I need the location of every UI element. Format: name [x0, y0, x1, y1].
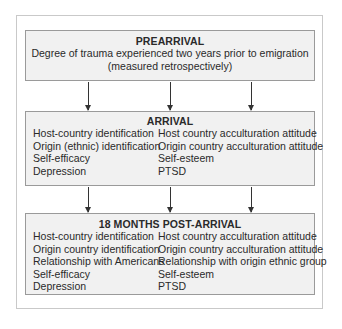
measure-item: Depression	[33, 165, 158, 178]
measure-item: Origin (ethnic) identification	[33, 140, 158, 153]
measure-item: Self-efficacy	[33, 268, 158, 281]
measure-item: PTSD	[158, 165, 323, 178]
measure-item: Relationship with origin ethnic group	[158, 255, 327, 268]
prearrival-description-line-1: Degree of trauma experienced two years p…	[26, 47, 314, 60]
arrival-title: ARRIVAL	[26, 115, 314, 127]
measure-item: Host-country identification	[33, 230, 158, 243]
prearrival-title: PREARRIVAL	[26, 35, 314, 47]
prearrival-description-line-2: (measured retrospectively)	[26, 60, 314, 73]
post-arrival-title: 18 MONTHS POST-ARRIVAL	[26, 218, 314, 230]
post-arrival-left-column: Host-country identification Origin count…	[33, 230, 158, 293]
arrival-box: ARRIVAL Host-country identification Orig…	[25, 111, 315, 186]
measure-item: Self-efficacy	[33, 152, 158, 165]
arrow-down-icon	[88, 82, 89, 110]
measure-item: Depression	[33, 280, 158, 293]
measure-item: Origin country identification	[33, 243, 158, 256]
arrow-down-icon	[251, 187, 252, 212]
arrow-down-icon	[170, 187, 171, 212]
measure-item: Self-esteem	[158, 268, 327, 281]
measure-item: Host country acculturation attitude	[158, 127, 323, 140]
measure-item: Self-esteem	[158, 152, 323, 165]
measure-item: Origin country acculturation attitude	[158, 140, 323, 153]
measure-item: Origin country acculturation attitude	[158, 243, 327, 256]
arrow-down-icon	[251, 82, 252, 110]
measure-item: Relationship with Americans	[33, 255, 158, 268]
arrow-down-icon	[88, 187, 89, 212]
prearrival-box: PREARRIVAL Degree of trauma experienced …	[25, 30, 315, 81]
post-arrival-box: 18 MONTHS POST-ARRIVAL Host-country iden…	[25, 213, 315, 295]
measure-item: Host country acculturation attitude	[158, 230, 327, 243]
measure-item: Host-country identification	[33, 127, 158, 140]
arrival-right-column: Host country acculturation attitude Orig…	[158, 127, 323, 177]
arrow-down-icon	[170, 82, 171, 110]
arrival-left-column: Host-country identification Origin (ethn…	[33, 127, 158, 177]
measure-item: PTSD	[158, 280, 327, 293]
post-arrival-right-column: Host country acculturation attitude Orig…	[158, 230, 327, 293]
